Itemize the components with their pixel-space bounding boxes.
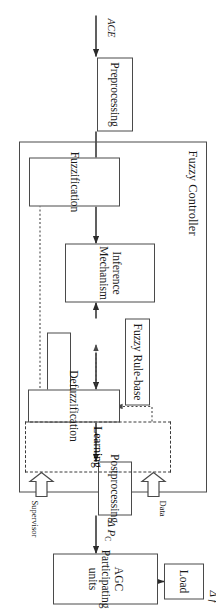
block-learning[interactable]: Learning (25, 421, 171, 472)
block-learning-label: Learning (92, 426, 104, 468)
supervisor-annotation-label: Supervisor (30, 500, 40, 537)
block-inference-line1: Inference (110, 251, 123, 294)
block-defuzzification[interactable]: Defuzzification (28, 389, 120, 422)
signal-delta-pc-sub: C (103, 536, 112, 541)
block-preprocessing[interactable]: Preprocessing (97, 57, 133, 131)
block-inference-line2: Mechanism (97, 246, 110, 300)
signal-delta-pc-main: Δ P (106, 520, 118, 536)
signal-delta-f-label: Δ f (208, 590, 216, 602)
block-agc-participating-units[interactable]: AGC Participating units (53, 553, 158, 604)
block-inference-mechanism[interactable]: Inference Mechanism (65, 243, 155, 302)
block-load-label: Load (178, 569, 191, 593)
block-load[interactable]: Load (164, 563, 204, 599)
block-fuzzification[interactable]: Fuzzification (29, 157, 120, 206)
block-fuzzification-label: Fuzzification (68, 151, 81, 212)
signal-delta-pc-label: Δ PC (103, 520, 118, 541)
block-rulebase-label: Fuzzy Rule-base (131, 323, 144, 400)
block-agc-line1: AGC (112, 566, 125, 590)
block-agc-line2: Participating units (86, 549, 112, 608)
block-preprocessing-label: Preprocessing (109, 62, 122, 127)
fuzzy-controller-label: Fuzzy Controller (185, 150, 200, 235)
data-annotation-label: Data (158, 500, 168, 516)
block-fuzzy-rule-base[interactable]: Fuzzy Rule-base (125, 318, 150, 405)
signal-ace-label: ACE (106, 18, 117, 37)
diagram-canvas: Fuzzy Controller Preprocessing Fuzzifica… (0, 0, 216, 611)
